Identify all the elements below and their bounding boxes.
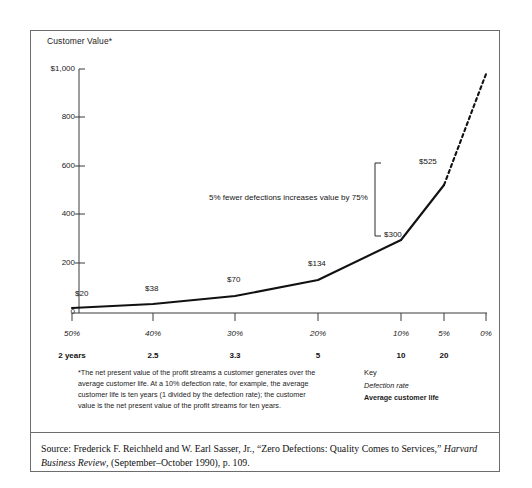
key-title: Key [364,367,494,380]
x-label-30pct: 30% [215,329,255,338]
point-label-134: $134 [308,259,326,268]
x-life-label-2-5: 2.5 [133,351,173,360]
annotation-bracket [375,163,381,236]
key-average-customer-life: Average customer life [364,392,494,404]
data-line-solid [72,185,444,308]
point-label-525: $525 [419,157,437,166]
point-label-70: $70 [227,275,240,284]
x-label-5pct: 5% [424,329,464,338]
x-life-label-2years: 2 years [48,351,96,360]
key-defection-rate: Defection rate [364,380,494,392]
x-label-20pct: 20% [298,329,338,338]
figure-footnote: *The net present value of the profit str… [78,367,318,412]
source-citation: Source: Frederick F. Reichheld and W. Ea… [41,442,491,470]
figure-frame: Customer Value* $1,000 800 600 400 200 0 [30,30,500,472]
chart-area: Customer Value* $1,000 800 600 400 200 0 [31,31,499,431]
chart-annotation: 5% fewer defections increases value by 7… [209,193,368,202]
point-label-20: $20 [75,289,88,298]
point-label-300: $300 [384,230,402,239]
x-label-10pct: 10% [381,329,421,338]
x-life-label-10: 10 [381,351,421,360]
figure-key: Key Defection rate Average customer life [364,367,494,404]
point-label-38: $38 [145,284,158,293]
source-divider [31,432,499,433]
source-text-prefix: Source: Frederick F. Reichheld and W. Ea… [41,443,444,454]
x-label-0pct: 0% [466,329,506,338]
x-life-label-20: 20 [424,351,464,360]
x-life-label-5: 5 [298,351,338,360]
data-line-dashed [444,74,486,185]
x-life-label-3-3: 3.3 [215,351,255,360]
source-text-suffix: , (September–October 1990), p. 109. [106,457,250,468]
figure-page: Customer Value* $1,000 800 600 400 200 0 [0,0,532,488]
x-label-40pct: 40% [133,329,173,338]
x-label-50pct: 50% [52,329,92,338]
